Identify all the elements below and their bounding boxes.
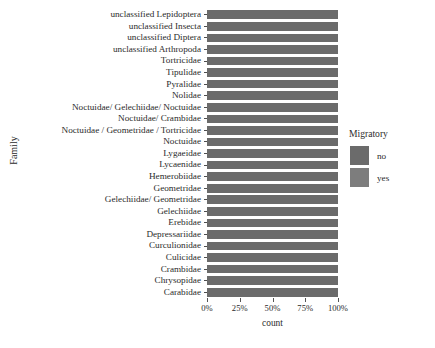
bar-row[interactable] (207, 113, 338, 125)
bar-row[interactable] (207, 206, 338, 218)
bar-track (207, 138, 338, 147)
legend-item[interactable]: no (349, 145, 431, 166)
bar-row[interactable] (207, 252, 338, 264)
bar-segment-no[interactable] (207, 184, 338, 193)
bar-segment-no[interactable] (207, 242, 338, 251)
bar-segment-no[interactable] (207, 34, 338, 43)
bar-segment-no[interactable] (207, 230, 338, 239)
x-axis-tick-mark (305, 298, 306, 302)
x-axis-tick-label: 50% (265, 303, 281, 313)
y-axis-tick-label: Nolidae (20, 90, 201, 102)
bar-segment-no[interactable] (207, 253, 338, 262)
y-axis-tick-label-text: Lygaeidae (163, 149, 201, 158)
bar-track (207, 195, 338, 204)
bar-row[interactable] (207, 90, 338, 102)
y-axis-tick-label-text: Tipulidae (166, 68, 201, 77)
y-axis-tick-label: Crambidae (20, 263, 201, 275)
y-axis-tick-label: Gelechiidae/ Geometridae (20, 194, 201, 206)
bar-track (207, 10, 338, 19)
bar-track (207, 288, 338, 297)
bar-track (207, 230, 338, 239)
chart-container: Family unclassified Lepidopteraunclassif… (0, 0, 435, 348)
y-axis-tick-label: unclassified Insecta (20, 21, 201, 33)
bar-segment-no[interactable] (207, 80, 338, 89)
bar-track (207, 161, 338, 170)
bar-segment-no[interactable] (207, 207, 338, 216)
bar-segment-no[interactable] (207, 138, 338, 147)
bar-track (207, 22, 338, 31)
legend-items: noyes (349, 145, 431, 188)
bar-segment-no[interactable] (207, 265, 338, 274)
bar-row[interactable] (207, 55, 338, 67)
y-axis-tick-label: unclassified Arthropoda (20, 44, 201, 56)
bar-track (207, 184, 338, 193)
x-axis-title: count (207, 318, 338, 328)
x-axis-tick-mark (207, 298, 208, 302)
x-axis-tick-label: 75% (297, 303, 313, 313)
bar-segment-no[interactable] (207, 172, 338, 181)
y-axis-tick-label: Noctuidae/ Gelechiidae/ Noctuidae (20, 102, 201, 114)
y-axis-tick-label-text: Noctuidae/ Gelechiidae/ Noctuidae (72, 103, 201, 112)
bar-track (207, 57, 338, 66)
bar-row[interactable] (207, 182, 338, 194)
bar-row[interactable] (207, 136, 338, 148)
x-axis-tick-mark (338, 298, 339, 302)
bar-segment-no[interactable] (207, 149, 338, 158)
bar-segment-no[interactable] (207, 161, 338, 170)
y-axis-tick-label: Pyralidae (20, 78, 201, 90)
bar-segment-no[interactable] (207, 276, 338, 285)
bar-segment-no[interactable] (207, 126, 338, 135)
bar-segment-no[interactable] (207, 10, 338, 19)
y-axis-tick-label-text: Pyralidae (166, 80, 201, 89)
bar-row[interactable] (207, 287, 338, 299)
bar-track (207, 126, 338, 135)
bar-segment-no[interactable] (207, 103, 338, 112)
bar-segment-no[interactable] (207, 68, 338, 77)
bar-row[interactable] (207, 217, 338, 229)
bar-track (207, 68, 338, 77)
bar-row[interactable] (207, 240, 338, 252)
bar-row[interactable] (207, 263, 338, 275)
bar-segment-no[interactable] (207, 91, 338, 100)
bar-row[interactable] (207, 102, 338, 114)
legend-label: yes (377, 173, 389, 183)
y-axis-tick-label: Hemerobiidae (20, 171, 201, 183)
y-axis-tick-label-text: Culicidae (166, 253, 201, 262)
bar-row[interactable] (207, 275, 338, 287)
bar-row[interactable] (207, 125, 338, 137)
y-axis-tick-label: Lygaeidae (20, 148, 201, 160)
bar-track (207, 265, 338, 274)
bar-row[interactable] (207, 32, 338, 44)
y-axis-tick-label-text: Hemerobiidae (149, 172, 201, 181)
bar-row[interactable] (207, 78, 338, 90)
y-axis-title-text: Family (8, 136, 19, 164)
y-axis-tick-label: Curculionidae (20, 240, 201, 252)
y-axis-tick-label-text: Noctuidae/ Crambidae (118, 114, 201, 123)
bar-segment-no[interactable] (207, 195, 338, 204)
x-axis-tick-labels: 0%25%50%75%100% (207, 303, 338, 316)
bar-row[interactable] (207, 194, 338, 206)
bar-track (207, 253, 338, 262)
bar-segment-no[interactable] (207, 115, 338, 124)
bar-track (207, 103, 338, 112)
bar-segment-no[interactable] (207, 22, 338, 31)
bar-segment-no[interactable] (207, 45, 338, 54)
bar-row[interactable] (207, 171, 338, 183)
bar-row[interactable] (207, 67, 338, 79)
bar-row[interactable] (207, 44, 338, 56)
bar-track (207, 207, 338, 216)
bar-row[interactable] (207, 148, 338, 160)
y-axis-tick-label-text: Noctuidae (163, 137, 201, 146)
bar-segment-no[interactable] (207, 288, 338, 297)
y-axis-tick-label-text: unclassified Arthropoda (113, 45, 201, 54)
y-axis-tick-label-text: Erebidae (168, 218, 201, 227)
y-axis-tick-label: Noctuidae / Geometridae / Tortricidae (20, 125, 201, 137)
bar-row[interactable] (207, 21, 338, 33)
y-axis-tick-label-text: Lycaenidae (159, 160, 201, 169)
bar-row[interactable] (207, 9, 338, 21)
bar-segment-no[interactable] (207, 57, 338, 66)
legend-item[interactable]: yes (349, 167, 431, 188)
bar-row[interactable] (207, 159, 338, 171)
bar-segment-no[interactable] (207, 219, 338, 228)
bar-row[interactable] (207, 229, 338, 241)
